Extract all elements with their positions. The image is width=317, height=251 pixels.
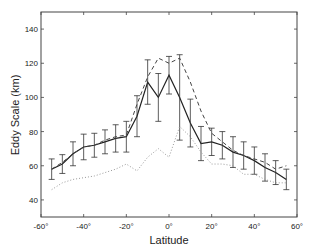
y-tick-label: 140	[25, 25, 39, 34]
x-tick-label: 20°	[206, 222, 218, 231]
x-tick-label: -40°	[76, 222, 91, 231]
plot-frame	[41, 12, 297, 217]
x-tick-label: -20°	[119, 222, 134, 231]
y-axis-label: Eddy Scale (km)	[9, 75, 21, 156]
eddy-scale-chart: -60°-40°-20°0°20°40°60° 406080100120140 …	[0, 0, 317, 251]
y-tick-label: 80	[29, 128, 38, 137]
y-tick-label: 60	[29, 162, 38, 171]
y-tick-label: 40	[29, 196, 38, 205]
x-tick-label: 0°	[165, 222, 173, 231]
x-axis-label: Latitude	[149, 234, 188, 246]
x-tick-label: 60°	[291, 222, 303, 231]
x-tick-label: -60°	[34, 222, 49, 231]
y-tick-label: 120	[25, 59, 39, 68]
x-tick-label: 40°	[248, 222, 260, 231]
y-tick-label: 100	[25, 93, 39, 102]
